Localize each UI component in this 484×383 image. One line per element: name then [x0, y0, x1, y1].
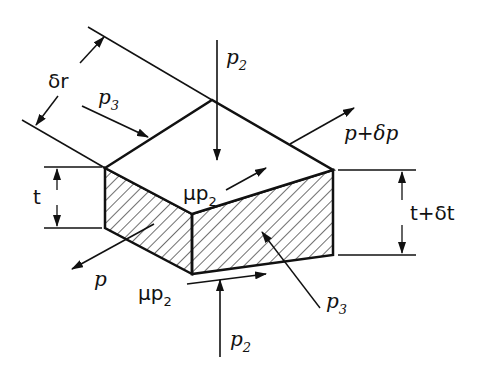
label-mu-p2-bottom: μp2: [138, 281, 172, 309]
label-p2-top: p2: [226, 45, 247, 73]
dr-extension-bottom: [22, 120, 105, 168]
mu-p2-bottom-arrow: [187, 274, 266, 284]
label-p-plus-dp: p+δp: [344, 121, 399, 145]
label-t: t: [33, 185, 41, 209]
diagram-canvas: δr p2 p3 p+δp t t+δt μp2 p μp2 p3 p2: [0, 0, 484, 383]
label-delta-r: δr: [48, 69, 69, 93]
label-p3-right: p3: [326, 289, 347, 317]
label-p-front: p: [94, 267, 107, 291]
label-t-plus-dt: t+δt: [410, 201, 455, 225]
dr-arrow-down: [36, 96, 58, 125]
label-p3-left: p3: [98, 85, 119, 113]
label-p2-bottom: p2: [230, 327, 251, 355]
dr-arrow-up: [80, 37, 104, 63]
